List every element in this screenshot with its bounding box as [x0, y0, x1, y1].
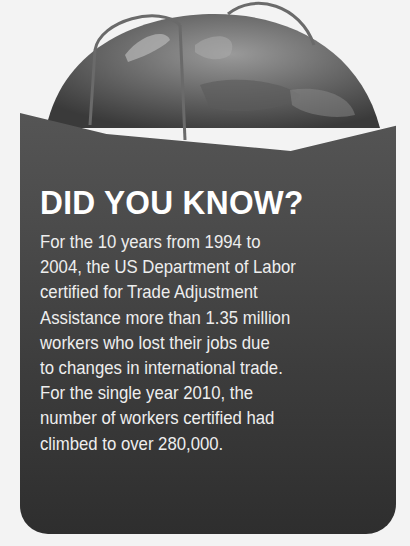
body-line: 2004, the US Department of Labor — [40, 254, 391, 279]
body-line: climbed to over 280,000. — [40, 431, 391, 456]
callout-body: For the 10 years from 1994 to 2004, the … — [40, 229, 391, 456]
body-line: For the 10 years from 1994 to — [40, 229, 391, 254]
body-line: Assistance more than 1.35 million — [40, 305, 391, 330]
body-line: For the single year 2010, the — [40, 380, 391, 405]
did-you-know-callout: DID YOU KNOW? For the 10 years from 1994… — [0, 0, 410, 546]
body-line: certified for Trade Adjustment — [40, 279, 391, 304]
callout-content: DID YOU KNOW? For the 10 years from 1994… — [40, 183, 390, 456]
body-line: to changes in international trade. — [40, 355, 391, 380]
body-line: number of workers certified had — [40, 405, 391, 430]
body-line: workers who lost their jobs due — [40, 330, 391, 355]
callout-title: DID YOU KNOW? — [40, 183, 376, 223]
